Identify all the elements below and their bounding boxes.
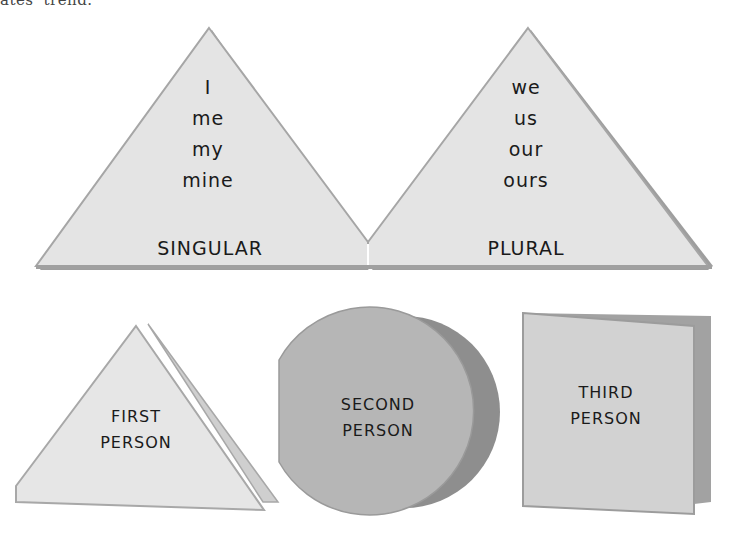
first-person-line1: FIRST — [76, 404, 196, 430]
singular-label: SINGULAR — [130, 235, 290, 261]
pronoun-word: our — [476, 134, 576, 165]
second-person-line2: PERSON — [318, 418, 438, 444]
third-person-line2: PERSON — [546, 406, 666, 432]
plural-label: PLURAL — [466, 235, 586, 261]
second-person-label: SECOND PERSON — [318, 392, 438, 444]
third-person-label: THIRD PERSON — [546, 380, 666, 432]
first-person-label: FIRST PERSON — [76, 404, 196, 456]
first-person-line2: PERSON — [76, 430, 196, 456]
second-person-line1: SECOND — [318, 392, 438, 418]
third-person-line1: THIRD — [546, 380, 666, 406]
pronoun-word: us — [476, 103, 576, 134]
pronoun-diagram: ates' trend. I me — [0, 0, 734, 539]
base-shadow — [36, 265, 712, 269]
pronoun-word: ours — [476, 165, 576, 196]
pronoun-word: we — [476, 72, 576, 103]
plural-pronouns: we us our ours — [476, 72, 576, 196]
pronoun-word: mine — [158, 165, 258, 196]
pronoun-word: me — [158, 103, 258, 134]
pronoun-word: my — [158, 134, 258, 165]
pronoun-word: I — [158, 72, 258, 103]
shapes-layer — [0, 0, 734, 539]
singular-pronouns: I me my mine — [158, 72, 258, 196]
